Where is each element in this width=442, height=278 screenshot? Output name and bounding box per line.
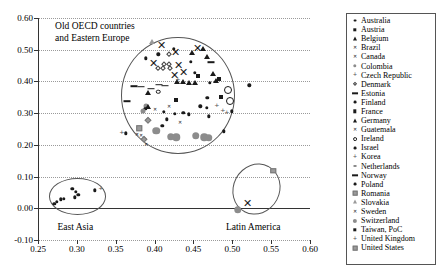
legend-item-label: Czech Republic <box>361 71 412 80</box>
legend-item-label: Guatemala <box>361 125 396 134</box>
y-axis-line <box>38 18 39 240</box>
y-tick-label: 0.00 <box>17 204 33 213</box>
legend-item-taiwan-poc[interactable]: Taiwan, PoC <box>350 225 433 234</box>
dash-small-icon <box>350 162 361 171</box>
circle-gray-icon <box>350 62 361 71</box>
data-point: + <box>120 129 125 137</box>
legend-item-austria[interactable]: Austria <box>350 25 433 34</box>
circle-open-icon <box>350 134 361 143</box>
x-icon: ✕ <box>350 52 361 61</box>
square-icon <box>350 107 361 116</box>
triangle-icon <box>350 34 361 43</box>
y-tick-label: 0.50 <box>17 45 33 54</box>
data-point: ✕ <box>144 142 148 147</box>
legend-item-label: Estonia <box>361 89 385 98</box>
plot-canvas: -0.100.000.100.200.300.400.500.60 0.250.… <box>38 18 310 240</box>
legend-item-poland[interactable]: Poland <box>350 180 433 189</box>
legend-item-united-states[interactable]: United States <box>350 243 433 252</box>
chart-plot-area: -0.100.000.100.200.300.400.500.60 0.250.… <box>0 0 330 278</box>
x-tick-label: 0.35 <box>108 245 124 254</box>
y-tick-label: 0.60 <box>17 14 33 23</box>
plus-icon: + <box>350 152 361 161</box>
legend-item-label: Australia <box>361 16 390 25</box>
legend-item-korea[interactable]: +Korea <box>350 152 433 161</box>
y-tick-mark <box>34 81 38 82</box>
legend-item-label: Finland <box>361 98 385 107</box>
x-tick-label: 0.25 <box>30 245 46 254</box>
data-point <box>248 84 251 87</box>
y-tick-label: 0.40 <box>17 77 33 86</box>
scatter-chart-figure: -0.100.000.100.200.300.400.500.60 0.250.… <box>0 0 442 278</box>
y-tick-mark <box>34 208 38 209</box>
legend-item-netherlands[interactable]: Netherlands <box>350 162 433 171</box>
data-point: ✕ <box>149 58 158 69</box>
triangle-icon <box>350 116 361 125</box>
legend-item-slovakia[interactable]: Slovakia <box>350 198 433 207</box>
legend-item-czech-republic[interactable]: +Czech Republic <box>350 71 433 80</box>
legend-item-label: Slovakia <box>361 198 389 207</box>
x-tick-label: 0.30 <box>69 245 85 254</box>
legend-item-label: Korea <box>361 152 381 161</box>
legend-item-label: Israel <box>361 143 379 152</box>
legend-item-norway[interactable]: Norway <box>350 171 433 180</box>
y-tick-mark <box>34 18 38 19</box>
x-tick-label: 0.40 <box>147 245 163 254</box>
data-point: ✕ <box>157 39 166 50</box>
legend-item-france[interactable]: France <box>350 107 433 116</box>
legend-item-canada[interactable]: ✕Canada <box>350 52 433 61</box>
x-tick-label: 0.45 <box>186 245 202 254</box>
legend-item-label: Romania <box>361 189 390 198</box>
legend-item-label: Sweden <box>361 207 386 216</box>
x-tick-label: 0.55 <box>263 245 279 254</box>
legend-item-label: Taiwan, PoC <box>361 225 402 234</box>
legend-item-label: Austria <box>361 25 385 34</box>
y-tick-label: 0.10 <box>17 172 33 181</box>
legend-item-label: Switzerland <box>361 216 399 225</box>
x-tick-label: 0.50 <box>224 245 240 254</box>
legend-item-label: Norway <box>361 171 387 180</box>
data-point: ✕ <box>139 133 143 138</box>
cluster-ellipse-latin-america <box>224 155 290 223</box>
dash-icon <box>350 171 361 180</box>
legend-item-united-kingdom[interactable]: +United Kingdom <box>350 234 433 243</box>
legend-item-label: France <box>361 107 383 116</box>
data-point: ✕ <box>171 47 180 58</box>
data-point: + <box>99 185 104 193</box>
data-point: + <box>176 76 181 84</box>
legend-item-finland[interactable]: Finland <box>350 98 433 107</box>
legend-item-colombia[interactable]: Colombia <box>350 61 433 70</box>
legend-item-australia[interactable]: Australia <box>350 16 433 25</box>
x-icon: ✕ <box>350 125 361 134</box>
legend-item-israel[interactable]: Israel <box>350 143 433 152</box>
x-icon: ✕ <box>350 43 361 52</box>
annotation-label: Latin America <box>226 222 281 234</box>
dot-icon <box>350 180 361 189</box>
legend-item-sweden[interactable]: ✕Sweden <box>350 207 433 216</box>
legend-item-label: Canada <box>361 52 385 61</box>
legend-item-belgium[interactable]: Belgium <box>350 34 433 43</box>
legend-item-ireland[interactable]: Ireland <box>350 134 433 143</box>
data-point: ✕ <box>153 107 157 112</box>
legend-item-label: United Kingdom <box>361 234 415 243</box>
dot-icon <box>350 143 361 152</box>
legend-item-label: Netherlands <box>361 162 400 171</box>
legend-item-germany[interactable]: Germany <box>350 116 433 125</box>
legend-item-label: Denmark <box>361 80 391 89</box>
square-gray-icon <box>350 189 361 198</box>
legend-item-romania[interactable]: Romania <box>350 189 433 198</box>
legend-item-switzerland[interactable]: Switzerland <box>350 216 433 225</box>
legend-item-denmark[interactable]: Denmark <box>350 80 433 89</box>
y-tick-mark <box>34 177 38 178</box>
legend-item-guatemala[interactable]: ✕Guatemala <box>350 125 433 134</box>
y-tick-mark <box>34 113 38 114</box>
x-tick-label: 0.60 <box>302 245 318 254</box>
legend-item-estonia[interactable]: Estonia <box>350 89 433 98</box>
y-tick-label: 0.20 <box>17 140 33 149</box>
data-point: ✕ <box>243 197 252 208</box>
triangle-gray-icon <box>350 198 361 207</box>
dash-icon <box>350 89 361 98</box>
data-point: ✕ <box>167 103 171 108</box>
x-icon: ✕ <box>350 207 361 216</box>
dot-icon <box>350 98 361 107</box>
legend-item-brazil[interactable]: ✕Brazil <box>350 43 433 52</box>
